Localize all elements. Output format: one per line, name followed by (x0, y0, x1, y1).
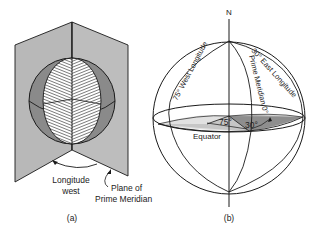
figure-b-caption: (b) (224, 213, 235, 223)
figure-a-caption: (a) (67, 213, 78, 223)
longitude-diagram: Longitude west Plane of Prime Meridian (… (0, 0, 319, 235)
equator-label: Equator (193, 132, 221, 141)
figure-a: Longitude west Plane of Prime Meridian (… (15, 22, 152, 223)
plane-label-2: Prime Meridian (95, 194, 152, 204)
figure-b: N 75° 30° Equator 75° West Longitude 30°… (153, 8, 305, 223)
plane-label-1: Plane of (111, 183, 143, 193)
longitude-west-label-2: west (61, 186, 80, 196)
plane-leader-line (105, 172, 109, 187)
longitude-west-arrow (54, 162, 97, 168)
angle-75-label: 75° (219, 117, 232, 127)
north-label: N (226, 8, 232, 17)
angle-30-label: 30° (245, 120, 258, 130)
arrowhead-icon (52, 160, 58, 165)
west-longitude-label: 75° West Longitude (171, 40, 210, 102)
longitude-west-label-1: Longitude (52, 175, 90, 185)
